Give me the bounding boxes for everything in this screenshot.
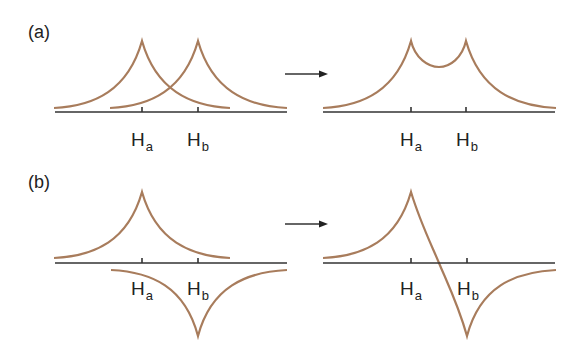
curve-a-left-peak-ha bbox=[54, 41, 230, 108]
panel-label-a: (a) bbox=[28, 22, 50, 43]
label-hb-b-right: Hb bbox=[457, 279, 479, 302]
label-ha-b-right: Ha bbox=[400, 279, 422, 302]
label-hb-b-left: Hb bbox=[187, 279, 209, 302]
curve-b-right-sum bbox=[323, 192, 556, 336]
curve-b-left-positive bbox=[54, 192, 230, 258]
diagram-canvas bbox=[0, 0, 580, 362]
right-arrow-icon bbox=[319, 71, 328, 228]
panel-label-b: (b) bbox=[28, 172, 50, 193]
label-ha-a-left: Ha bbox=[131, 130, 153, 153]
label-ha-b-left: Ha bbox=[131, 279, 153, 302]
curve-a-left-peak-hb bbox=[110, 41, 287, 108]
label-hb-a-right: Hb bbox=[456, 130, 478, 153]
label-ha-a-right: Ha bbox=[400, 130, 422, 153]
label-hb-a-left: Hb bbox=[187, 130, 209, 153]
curve-a-right-sum bbox=[323, 41, 556, 108]
